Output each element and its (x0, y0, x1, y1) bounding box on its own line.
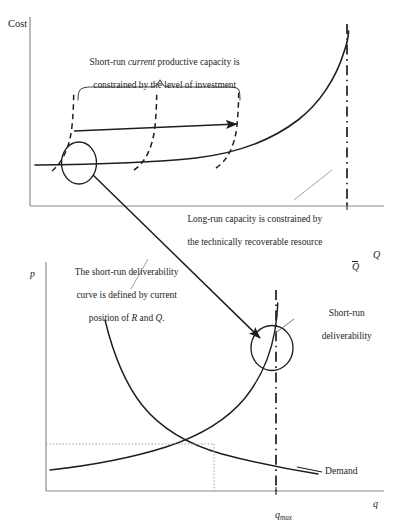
long-run-annotation-line2: the technically recoverable resource (187, 237, 322, 247)
short-run-deliverability-callout: Short-run deliverability (296, 297, 388, 354)
long-run-annotation-line1: Long-run capacity is constrained by (187, 214, 322, 224)
upper-y-axis-label: Cost (8, 18, 27, 31)
deliverability-annotation-line2: curve is defined by current (76, 290, 176, 300)
short-run-capacity-annotation: Short-run current productive capacity is… (52, 46, 268, 103)
short-run-capacity-curve-3 (216, 92, 239, 168)
demand-label: Demand (325, 465, 358, 477)
deliverability-annotation-line1: The short-run deliverability (75, 267, 179, 277)
qbar-tick-label: Q (342, 248, 359, 286)
upper-x-axis-label: Q (373, 249, 380, 261)
deliverability-annotation: The short-run deliverability curve is de… (48, 256, 196, 336)
long-run-leader-line (294, 170, 332, 200)
lower-x-axis-label: q (373, 498, 378, 510)
current-position-ellipse (62, 142, 97, 184)
lower-y-axis-label: p (30, 268, 35, 280)
short-run-capacity-curve-1 (52, 93, 74, 171)
short-run-annotation-line1: Short-run current productive capacity is (90, 57, 240, 67)
demand-curve (105, 320, 318, 474)
short-run-capacity-curve-2 (134, 93, 157, 170)
economics-figure: Cost Short-run current productive capaci… (0, 0, 399, 530)
qmax-tick-label: qmax (265, 497, 292, 530)
callout-line2: deliverability (322, 331, 372, 341)
deliverability-ellipse (251, 326, 293, 371)
short-run-annotation-line2: constrained by the level of investment (93, 80, 236, 90)
deliverability-annotation-line3: position of R and Q. (89, 313, 165, 323)
callout-line1: Short-run (329, 308, 365, 318)
